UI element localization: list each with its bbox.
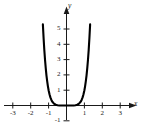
y-axis-label: y [68,2,71,10]
y-tick-label-1: 1 [43,87,61,94]
y-tick-label--1: -1 [43,117,61,124]
plot-canvas [0,0,141,125]
y-tick-label-2: 2 [43,71,61,78]
x-tick-label-1: 1 [75,110,93,117]
x-axis-label: x [134,100,137,108]
x-tick-label--2: -2 [22,110,40,117]
y-axis [64,7,70,121]
x-tick-label-2: 2 [93,110,111,117]
x-tick-label--3: -3 [4,110,22,117]
y-tick-label-3: 3 [43,56,61,63]
x-tick-label-3: 3 [111,110,129,117]
y-tick-label-5: 5 [43,25,61,32]
graph-figure: x y -3-2-1123-112345 [0,0,141,125]
y-tick-label-4: 4 [43,41,61,48]
